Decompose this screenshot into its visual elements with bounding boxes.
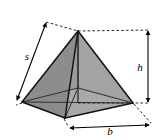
guide-left-corner-to-slant-arrow: [16, 103, 22, 105]
guide-front-corner-to-base-arrow: [64, 119, 68, 126]
height-label: h: [137, 61, 143, 73]
slant-label: s: [25, 50, 29, 62]
guide-apex-to-height-arrow: [78, 30, 150, 31]
guide-apex-to-slant-arrow: [46, 22, 78, 31]
base-label: b: [107, 125, 113, 137]
pyramid-diagram-svg: s h b: [0, 0, 165, 140]
guide-right-corner-to-base-arrow: [134, 104, 151, 123]
pyramid-figure: s h b: [0, 0, 165, 140]
